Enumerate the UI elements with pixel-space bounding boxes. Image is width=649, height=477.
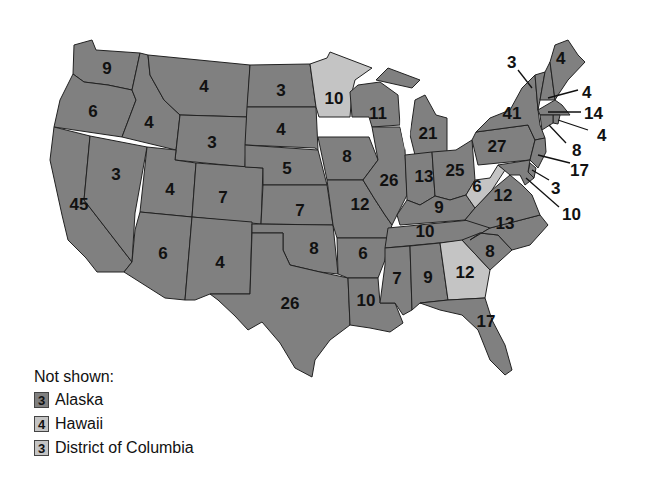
legend-label: District of Columbia bbox=[55, 439, 194, 457]
label-rhode-island: 4 bbox=[597, 126, 607, 145]
label-kentucky: 9 bbox=[434, 198, 443, 217]
label-illinois: 26 bbox=[380, 171, 399, 190]
label-new-jersey: 17 bbox=[570, 161, 589, 180]
label-nevada: 3 bbox=[111, 165, 120, 184]
legend-label: Hawaii bbox=[55, 415, 103, 433]
legend-swatch: 3 bbox=[34, 440, 49, 456]
label-massachusetts: 14 bbox=[584, 104, 603, 123]
label-arkansas: 6 bbox=[358, 244, 367, 263]
label-wyoming: 3 bbox=[207, 133, 216, 152]
legend-label: Alaska bbox=[55, 391, 103, 409]
label-vermont: 3 bbox=[507, 53, 516, 72]
label-oklahoma: 8 bbox=[309, 239, 318, 258]
legend: Not shown: 3 Alaska 4 Hawaii 3 District … bbox=[34, 368, 194, 460]
label-south-dakota: 4 bbox=[276, 120, 286, 139]
label-connecticut: 8 bbox=[572, 141, 581, 160]
label-ohio: 25 bbox=[446, 161, 465, 180]
legend-item-alaska: 3 Alaska bbox=[34, 388, 194, 412]
label-maryland: 10 bbox=[562, 205, 581, 224]
label-new-mexico: 4 bbox=[215, 253, 225, 272]
label-mississippi: 7 bbox=[392, 269, 401, 288]
label-iowa: 8 bbox=[342, 147, 351, 166]
legend-item-dc: 3 District of Columbia bbox=[34, 436, 194, 460]
label-idaho: 4 bbox=[144, 113, 154, 132]
label-arizona: 6 bbox=[158, 244, 167, 263]
label-montana: 4 bbox=[199, 77, 209, 96]
label-tennessee: 10 bbox=[416, 222, 435, 241]
label-florida: 17 bbox=[477, 312, 496, 331]
label-washington: 9 bbox=[102, 59, 111, 78]
legend-title: Not shown: bbox=[34, 368, 194, 386]
label-louisiana: 10 bbox=[357, 291, 376, 310]
label-utah: 4 bbox=[165, 180, 175, 199]
label-south-carolina: 8 bbox=[485, 242, 494, 261]
label-california: 45 bbox=[70, 195, 89, 214]
label-north-carolina: 13 bbox=[496, 214, 515, 233]
label-georgia: 12 bbox=[456, 263, 475, 282]
label-texas: 26 bbox=[281, 294, 300, 313]
label-wisconsin: 11 bbox=[369, 104, 387, 123]
state-rhode-island[interactable] bbox=[553, 115, 560, 124]
label-michigan: 21 bbox=[419, 124, 438, 143]
legend-swatch: 4 bbox=[34, 416, 49, 432]
label-delaware: 3 bbox=[551, 179, 560, 198]
label-new-york: 41 bbox=[503, 104, 522, 123]
label-west-virginia: 6 bbox=[472, 177, 481, 196]
label-colorado: 7 bbox=[218, 188, 227, 207]
label-alabama: 9 bbox=[423, 268, 432, 287]
label-oregon: 6 bbox=[88, 102, 97, 121]
state-florida[interactable] bbox=[420, 298, 512, 375]
legend-swatch: 3 bbox=[34, 392, 49, 408]
label-maine: 4 bbox=[556, 49, 566, 68]
label-indiana: 13 bbox=[415, 167, 434, 186]
label-new-hampshire: 4 bbox=[582, 83, 592, 102]
legend-item-hawaii: 4 Hawaii bbox=[34, 412, 194, 436]
label-nebraska: 5 bbox=[282, 159, 291, 178]
label-minnesota: 10 bbox=[325, 89, 344, 108]
label-pennsylvania: 27 bbox=[488, 137, 507, 156]
state-massachusetts[interactable] bbox=[538, 100, 570, 115]
label-north-dakota: 3 bbox=[276, 81, 285, 100]
label-missouri: 12 bbox=[351, 195, 370, 214]
label-kansas: 7 bbox=[295, 201, 304, 220]
label-virginia: 12 bbox=[494, 186, 513, 205]
